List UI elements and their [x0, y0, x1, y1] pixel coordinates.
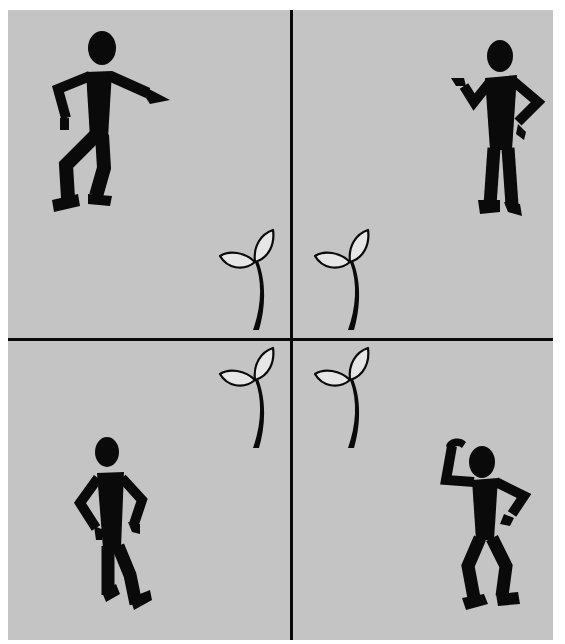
- sprout-icon: [315, 230, 368, 330]
- sprout-icon: [220, 230, 273, 330]
- stick-figure-gesturing-icon: [451, 40, 538, 216]
- sprout-icon: [220, 348, 273, 448]
- stick-figure-scratching-head-icon: [446, 439, 524, 610]
- stick-figure-hands-on-hips-icon: [80, 437, 152, 610]
- stick-figure-pointing-icon: [52, 31, 170, 212]
- sprout-icon: [315, 348, 368, 448]
